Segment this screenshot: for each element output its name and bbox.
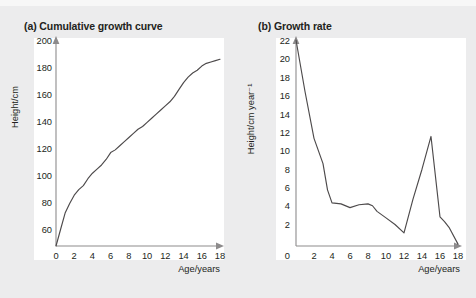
x-tick-label-a: 8 (126, 251, 131, 261)
y-tick-label-a: 140 (36, 117, 52, 127)
y-tick-label-a: 160 (36, 90, 52, 100)
y-tick-label-a: 180 (36, 63, 52, 73)
y-tick-label-a: 200 (36, 36, 52, 46)
y-tick-label-b: 22 (280, 36, 290, 46)
y-tick-label-b: 20 (280, 54, 290, 64)
y-tick-label-b: 0 (285, 251, 290, 261)
x-tick-label-a: 16 (197, 251, 207, 261)
x-tick-label-a: 4 (90, 251, 95, 261)
y-axis-title-a: Height/cm (10, 86, 20, 128)
x-tick-label-a: 12 (160, 251, 170, 261)
y-tick-label-b: 14 (280, 110, 290, 120)
panel-growth-rate: (b) Growth rate Height/cm year⁻¹ 22 20 1… (240, 14, 470, 284)
x-tick-label-a: 6 (108, 251, 113, 261)
y-tick-label-a: 100 (36, 171, 52, 181)
figure-container: (a) Cumulative growth curve Height/cm 20… (0, 0, 476, 298)
y-tick-label-b: 10 (280, 146, 290, 156)
x-axis-title-b: Age/years (418, 264, 460, 274)
panel-cumulative-growth-curve: (a) Cumulative growth curve Height/cm 20… (6, 14, 234, 284)
x-tick-label-a: 18 (215, 251, 225, 261)
chart-a-svg: Height/cm 200 180 160 140 120 100 80 60 … (6, 14, 234, 284)
data-curve-growth-rate (296, 40, 458, 244)
x-tick-label-a: 14 (178, 251, 188, 261)
data-curve-cumulative-growth (56, 59, 220, 246)
x-tick-label-b: 18 (453, 251, 463, 261)
x-tick-label-b: 2 (311, 251, 316, 261)
y-tick-label-b: 4 (285, 201, 290, 211)
x-tick-label-b: 10 (381, 251, 391, 261)
y-tick-label-b: 12 (280, 128, 290, 138)
y-tick-label-a: 80 (42, 198, 52, 208)
x-tick-label-b: 14 (417, 251, 427, 261)
y-tick-label-b: 6 (285, 183, 290, 193)
y-tick-label-b: 2 (285, 220, 290, 230)
chart-b-svg: Height/cm year⁻¹ 22 20 18 16 14 12 10 8 … (240, 14, 470, 284)
x-tick-label-b: 4 (329, 251, 334, 261)
x-tick-label-b: 6 (347, 251, 352, 261)
y-tick-label-a: 60 (42, 225, 52, 235)
x-tick-label-b: 16 (435, 251, 445, 261)
x-axis-title-a: Age/years (178, 264, 220, 274)
x-tick-label-b: 8 (365, 251, 370, 261)
x-tick-label-a: 0 (53, 251, 58, 261)
x-tick-label-a: 2 (72, 251, 77, 261)
y-tick-label-b: 18 (280, 73, 290, 83)
y-tick-label-a: 120 (36, 144, 52, 154)
x-tick-label-a: 10 (142, 251, 152, 261)
x-tick-label-b: 12 (399, 251, 409, 261)
y-tick-label-b: 16 (280, 91, 290, 101)
top-rule (0, 0, 476, 6)
y-tick-label-b: 8 (285, 165, 290, 175)
y-axis-title-b: Height/cm year⁻¹ (246, 84, 256, 155)
